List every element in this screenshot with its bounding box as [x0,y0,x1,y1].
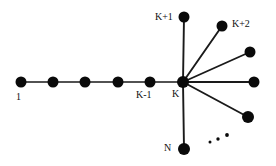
ellipsis-dot [216,137,219,140]
graph-node [113,77,124,88]
node-label-nkp2: K+2 [232,19,250,29]
node-label-nk: K [172,89,179,99]
graph-node [177,76,189,88]
graph-edge [183,17,184,82]
graph-edge [183,82,248,117]
graph-node [179,12,190,23]
graph-node [249,77,260,88]
graph-edge [183,82,184,149]
nodes-group [16,12,260,156]
ellipsis-dot [209,141,212,144]
graph-figure: 1K-1KK+1K+2N [0,0,276,166]
graph-node [145,77,156,88]
node-label-n1: 1 [16,92,21,102]
node-label-nkp1: K+1 [155,12,173,22]
graph-node [80,77,91,88]
graph-node [16,77,27,88]
ellipsis-dot [225,133,229,137]
graph-node [217,21,228,32]
node-label-nn: N [164,143,171,153]
graph-node [245,47,256,58]
graph-node [48,77,59,88]
graph-node [178,143,190,155]
ellipsis-dots [209,133,229,143]
node-label-nk1: K-1 [136,90,152,100]
graph-node [242,111,254,123]
